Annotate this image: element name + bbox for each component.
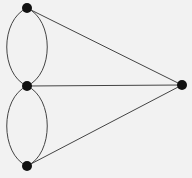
graph-diagram [0, 0, 192, 178]
edge-b-c-left [7, 86, 27, 166]
edge-b-d [27, 85, 182, 86]
edge-a-d [27, 8, 182, 85]
node-a [22, 3, 32, 13]
edge-b-c-right [27, 86, 47, 166]
edge-a-b-left [7, 8, 27, 86]
node-b [22, 81, 32, 91]
node-d [177, 80, 187, 90]
edge-a-b-right [27, 8, 47, 86]
node-c [22, 161, 32, 171]
edge-c-d [27, 85, 182, 166]
